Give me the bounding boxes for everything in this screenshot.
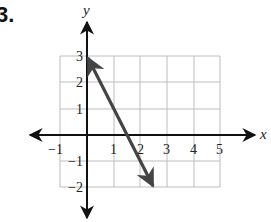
y-axis-label: y <box>81 2 90 18</box>
x-axis-label: x <box>259 126 267 142</box>
svg-text:3: 3 <box>76 49 83 64</box>
svg-text:−1: −1 <box>68 154 83 169</box>
svg-text:2: 2 <box>76 75 83 90</box>
coordinate-plane: y x −1 1 2 3 4 5 3 2 1 −1 −2 <box>0 0 271 222</box>
svg-text:1: 1 <box>76 102 83 117</box>
y-tick-labels: 3 2 1 −1 −2 <box>68 49 83 195</box>
svg-text:1: 1 <box>110 142 117 157</box>
plotted-line <box>88 58 153 186</box>
svg-text:5: 5 <box>216 142 223 157</box>
svg-text:−2: −2 <box>68 180 83 195</box>
svg-text:−1: −1 <box>48 142 63 157</box>
svg-text:4: 4 <box>190 142 197 157</box>
grid <box>60 56 220 187</box>
svg-text:3: 3 <box>163 142 170 157</box>
